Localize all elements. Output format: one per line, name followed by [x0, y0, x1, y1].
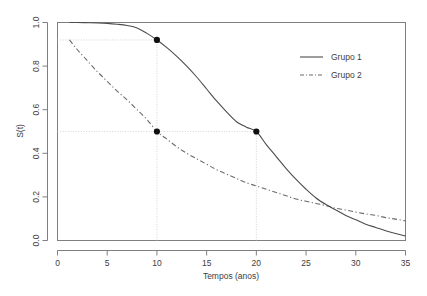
legend-label-grupo-1: Grupo 1: [331, 52, 362, 62]
y-tick-label: 0.0: [31, 234, 41, 246]
y-axis-ticks: 0.00.20.40.60.81.0: [31, 16, 48, 246]
x-axis: 05101520253035 Tempos (anos): [55, 251, 410, 282]
y-tick-label: 0.4: [31, 147, 41, 159]
x-tick-label: 20: [252, 258, 262, 268]
series-line-grupo-2: [69, 40, 405, 221]
y-axis: 0.00.20.40.60.81.0 S(t): [15, 16, 48, 246]
x-tick-label: 25: [301, 258, 311, 268]
y-tick-label: 0.2: [31, 191, 41, 203]
plot-canvas: 0.00.20.40.60.81.0 S(t) 05101520253035 T…: [0, 0, 427, 296]
annotation-point-grupo2-median: [154, 128, 160, 134]
x-axis-ticks: 05101520253035: [55, 251, 410, 269]
x-tick-label: 0: [55, 258, 60, 268]
y-axis-title: S(t): [15, 124, 25, 138]
y-tick-label: 0.8: [31, 60, 41, 72]
x-tick-label: 15: [202, 258, 212, 268]
x-tick-label: 10: [152, 258, 162, 268]
annotation-points: [154, 37, 260, 135]
legend-label-grupo-2: Grupo 2: [331, 70, 362, 80]
annotation-point-grupo1-at-t10: [154, 37, 160, 43]
x-tick-label: 30: [351, 258, 361, 268]
x-tick-label: 35: [401, 258, 411, 268]
reference-lines: [58, 40, 257, 241]
y-tick-label: 0.6: [31, 104, 41, 116]
chart-legend: Grupo 1 Grupo 2: [300, 52, 362, 80]
x-axis-title: Tempos (anos): [203, 271, 259, 281]
annotation-point-grupo1-median: [253, 128, 259, 134]
y-tick-label: 1.0: [31, 16, 41, 28]
survival-curve-chart: 0.00.20.40.60.81.0 S(t) 05101520253035 T…: [0, 0, 427, 296]
x-tick-label: 5: [105, 258, 110, 268]
